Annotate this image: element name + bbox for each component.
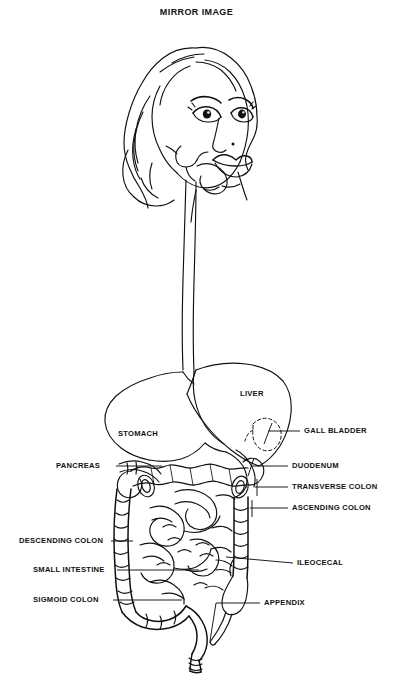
label-ileocecal: ILEOCECAL [297, 559, 343, 567]
stomach [105, 372, 226, 461]
liver [187, 363, 291, 466]
label-small-intestine: SMALL INTESTINE [33, 566, 105, 574]
esophagus [182, 180, 196, 372]
label-appendix: APPENDIX [264, 599, 305, 607]
label-transverse-colon: TRANSVERSE COLON [292, 483, 377, 491]
label-gall-bladder: GALL BLADDER [304, 427, 367, 435]
label-descending-colon: DESCENDING COLON [19, 537, 103, 545]
label-duodenum: DUODENUM [292, 462, 339, 470]
label-ascending-colon: ASCENDING COLON [292, 504, 371, 512]
diagram-page: MIRROR IMAGE [0, 0, 393, 684]
descending-colon [114, 489, 136, 612]
appendix [210, 612, 232, 645]
label-sigmoid-colon: SIGMOID COLON [33, 596, 99, 604]
small-intestine [140, 490, 235, 604]
face-features [166, 97, 256, 222]
ascending-colon [233, 497, 248, 578]
digestive-system-illustration [0, 0, 393, 684]
label-liver: LIVER [240, 390, 264, 398]
label-stomach: STOMACH [118, 430, 158, 438]
sigmoid-colon [122, 606, 207, 661]
head-outline [123, 47, 258, 208]
gall-bladder [245, 418, 281, 451]
leader-ileocecal [226, 557, 293, 563]
rectum [189, 654, 202, 673]
cecum-ileocecal [216, 560, 248, 615]
label-pancreas: PANCREAS [56, 462, 100, 470]
leader-gall-bladder-tick [264, 423, 272, 444]
